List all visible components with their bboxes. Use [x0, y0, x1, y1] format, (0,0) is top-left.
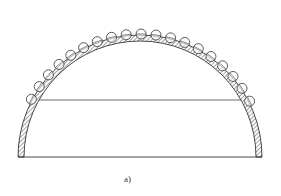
- hemispherical-shell-diagram: [0, 0, 281, 196]
- shell-wall: [18, 35, 262, 157]
- figure-caption: a): [124, 174, 131, 184]
- hatched-wall: [18, 35, 262, 157]
